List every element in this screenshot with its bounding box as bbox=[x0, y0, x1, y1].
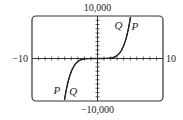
plot-canvas: 10,000 −10,000 −10 10 QPPQ bbox=[0, 0, 183, 120]
curve-label-p: P bbox=[53, 84, 61, 96]
y-max-label: 10,000 bbox=[84, 2, 112, 13]
x-max-label: 10 bbox=[166, 53, 176, 64]
curve-label-p: P bbox=[130, 20, 138, 32]
y-min-label: −10,000 bbox=[81, 104, 114, 115]
curve-label-q: Q bbox=[114, 19, 122, 31]
curve-label-q: Q bbox=[69, 85, 77, 97]
x-min-label: −10 bbox=[12, 53, 28, 64]
